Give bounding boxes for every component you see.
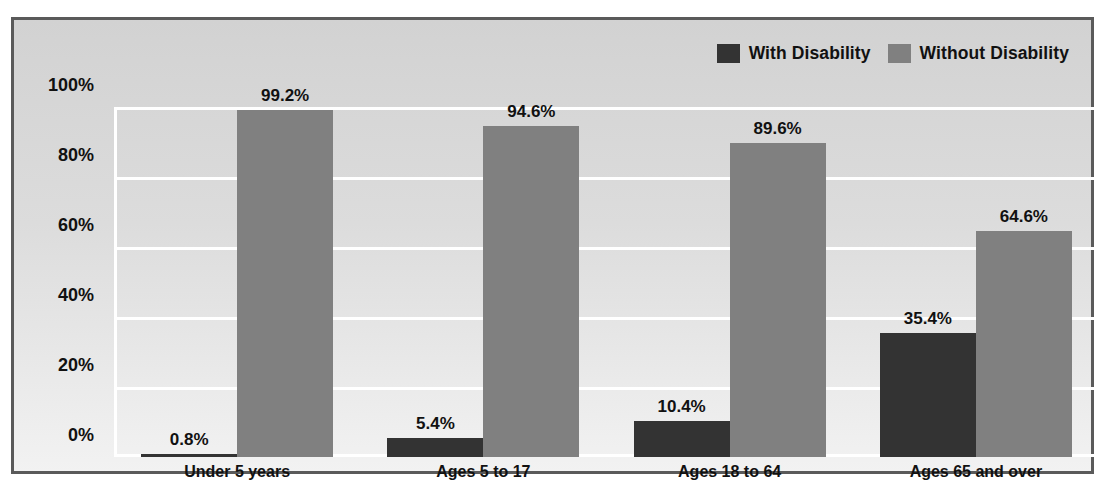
bar-column: 89.6% [730,107,826,457]
bar-value-label: 99.2% [261,86,309,106]
x-axis-labels: Under 5 yearsAges 5 to 17Ages 18 to 64Ag… [114,463,1099,493]
legend-item-with-disability[interactable]: With Disability [717,43,871,64]
bar-pair: 0.8%99.2% [114,107,360,457]
bar-column: 99.2% [237,107,333,457]
bar-pair: 5.4%94.6% [360,107,606,457]
chart-legend: With Disability Without Disability [717,43,1069,64]
bar-group: 35.4%64.6% [853,107,1099,457]
bar-pair: 35.4%64.6% [853,107,1099,457]
bar-column: 10.4% [634,107,730,457]
bar-pair: 10.4%89.6% [607,107,853,457]
bar-group: 5.4%94.6% [360,107,606,457]
bar-without-disability[interactable] [976,231,1072,457]
bar-column: 64.6% [976,107,1072,457]
bar-column: 94.6% [483,107,579,457]
bar-value-label: 10.4% [658,397,706,417]
legend-label-without-disability: Without Disability [920,43,1069,64]
x-tick-label: Ages 5 to 17 [360,463,606,481]
chart-panel: With Disability Without Disability 0.8%9… [11,17,1094,474]
bar-column: 0.8% [141,107,237,457]
x-tick-label: Under 5 years [114,463,360,481]
chart-screenshot: With Disability Without Disability 0.8%9… [0,0,1113,495]
bar-with-disability[interactable] [387,438,483,457]
legend-swatch-light-icon [888,44,911,63]
bar-value-label: 0.8% [170,430,209,450]
bar-value-label: 64.6% [1000,207,1048,227]
x-tick-label: Ages 65 and over [853,463,1099,481]
bar-column: 35.4% [880,107,976,457]
bar-with-disability[interactable] [141,454,237,457]
legend-swatch-dark-icon [717,44,740,63]
bar-column: 5.4% [387,107,483,457]
bar-value-label: 5.4% [416,414,455,434]
bar-group: 0.8%99.2% [114,107,360,457]
bar-without-disability[interactable] [730,143,826,457]
bar-with-disability[interactable] [634,421,730,457]
bar-without-disability[interactable] [483,126,579,457]
bar-with-disability[interactable] [880,333,976,457]
bar-group: 10.4%89.6% [607,107,853,457]
x-tick-label: Ages 18 to 64 [607,463,853,481]
bar-without-disability[interactable] [237,110,333,457]
bar-value-label: 94.6% [507,102,555,122]
bar-groups: 0.8%99.2%5.4%94.6%10.4%89.6%35.4%64.6% [114,107,1099,457]
bar-value-label: 89.6% [754,119,802,139]
legend-label-with-disability: With Disability [749,43,871,64]
legend-item-without-disability[interactable]: Without Disability [888,43,1069,64]
bar-value-label: 35.4% [904,309,952,329]
